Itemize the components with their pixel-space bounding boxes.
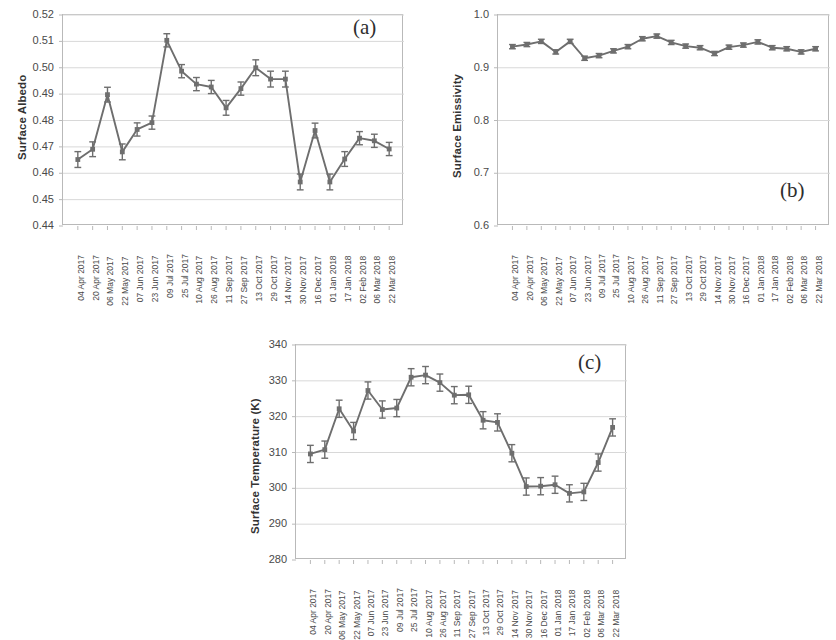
- y-tick-label: 280: [0, 554, 287, 565]
- x-tick-label: 07 Jun 2017: [367, 589, 376, 636]
- x-tick-label: 17 Jan 2018: [568, 589, 577, 636]
- y-tick-label: 300: [0, 482, 287, 493]
- data-point: [437, 374, 444, 391]
- plot-area: [295, 344, 626, 559]
- x-tick-label: 06 May 2017: [338, 591, 347, 640]
- x-tick-label: 27 Sep 2017: [468, 590, 477, 638]
- x-tick-label: 01 Jan 2018: [554, 589, 563, 636]
- x-tick-label: 16 Dec 2017: [540, 590, 549, 638]
- x-tick-label: 20 Apr 2017: [324, 589, 333, 635]
- y-tick-label: 320: [0, 410, 287, 421]
- plot-canvas: [296, 345, 627, 560]
- x-tick-label: 13 Oct 2017: [482, 589, 491, 635]
- x-tick-label: 25 Jul 2017: [410, 588, 419, 632]
- y-tick-label: 340: [0, 339, 287, 350]
- x-tick-label: 09 Jul 2017: [396, 588, 405, 632]
- x-tick-label: 14 Nov 2017: [511, 590, 520, 638]
- data-point: [537, 478, 544, 495]
- x-tick-label: 06 Mar 2018: [597, 590, 606, 638]
- panel-tag-c: (c): [578, 350, 601, 375]
- data-line: [310, 375, 612, 493]
- x-tick-label: 22 Mar 2018: [612, 590, 621, 638]
- x-tick-label: 30 Nov 2017: [525, 590, 534, 638]
- x-tick-label: 11 Sep 2017: [453, 590, 462, 638]
- x-tick-label: 04 Apr 2017: [309, 589, 318, 635]
- y-tick-label: 310: [0, 446, 287, 457]
- data-point: [451, 387, 458, 404]
- x-tick-label: 02 Feb 2018: [583, 590, 592, 638]
- y-tick-label: 290: [0, 518, 287, 529]
- y-tick-label: 330: [0, 374, 287, 385]
- x-tick-label: 10 Aug 2017: [425, 590, 434, 638]
- data-point: [552, 476, 559, 493]
- x-tick-label: 26 Aug 2017: [439, 590, 448, 638]
- x-tick-label: 29 Oct 2017: [496, 589, 505, 635]
- data-point: [307, 445, 314, 462]
- data-point: [379, 401, 386, 418]
- data-point: [566, 485, 573, 502]
- x-tick-label: 23 Jun 2017: [381, 589, 390, 636]
- x-tick-label: 22 May 2017: [353, 591, 362, 640]
